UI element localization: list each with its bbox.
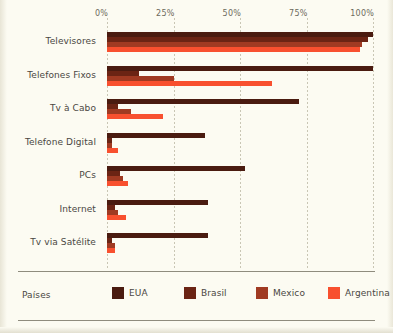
legend-label: EUA xyxy=(129,288,148,298)
bar-argentina xyxy=(107,47,360,52)
bar-group xyxy=(107,66,373,86)
x-tick-label: 0% xyxy=(95,9,111,18)
x-axis-line xyxy=(18,271,375,272)
legend-title: Países xyxy=(22,290,51,300)
bar-eua xyxy=(107,133,205,138)
legend-swatch-icon xyxy=(112,287,124,299)
bar-group xyxy=(107,99,373,119)
legend-item-eua[interactable]: EUA xyxy=(112,287,148,299)
legend-item-mexico[interactable]: Mexico xyxy=(256,287,305,299)
legend-swatch-icon xyxy=(328,287,340,299)
legend-swatch-icon xyxy=(256,287,268,299)
bar-eua xyxy=(107,66,373,71)
chart-legend: Países EUABrasilMexicoArgentina xyxy=(0,286,393,308)
bar-group xyxy=(107,166,373,186)
y-axis-category-labels: TelevisoresTelefones FixosTv à CaboTelef… xyxy=(0,28,104,268)
bar-group xyxy=(107,32,373,52)
legend-item-argentina[interactable]: Argentina xyxy=(328,287,390,299)
bar-group xyxy=(107,200,373,220)
legend-divider xyxy=(18,320,375,321)
bar-argentina xyxy=(107,148,118,153)
legend-item-brasil[interactable]: Brasil xyxy=(184,287,227,299)
legend-label: Mexico xyxy=(273,288,305,298)
category-label: Internet xyxy=(59,204,96,214)
legend-label: Brasil xyxy=(201,288,227,298)
bar-argentina xyxy=(107,81,272,86)
bar-argentina xyxy=(107,215,126,220)
bar-group xyxy=(107,233,373,253)
x-tick-label: 50% xyxy=(223,9,244,18)
bar-group xyxy=(107,133,373,153)
x-tick-label: 75% xyxy=(289,9,310,18)
legend-label: Argentina xyxy=(345,288,390,298)
x-tick-label: 25% xyxy=(156,9,177,18)
bar-eua xyxy=(107,233,208,238)
page-edge-right xyxy=(387,0,393,333)
bar-eua xyxy=(107,200,208,205)
legend-swatch-icon xyxy=(184,287,196,299)
bar-eua xyxy=(107,166,245,171)
page-edge-bottom xyxy=(0,327,393,333)
gridline-100 xyxy=(373,18,374,268)
x-axis-tick-labels: 0%25%50%75%100% xyxy=(0,0,393,26)
category-label: Televisores xyxy=(46,36,96,46)
plot-area xyxy=(107,28,373,268)
bar-argentina xyxy=(107,114,163,119)
category-label: PCs xyxy=(79,170,96,180)
category-label: Telefone Digital xyxy=(25,137,96,147)
category-label: Telefones Fixos xyxy=(27,70,96,80)
bar-argentina xyxy=(107,181,128,186)
x-tick-label: 100% xyxy=(350,9,377,18)
bar-eua xyxy=(107,99,299,104)
category-label: Tv via Satélite xyxy=(30,237,96,247)
category-label: Tv à Cabo xyxy=(50,103,96,113)
bar-argentina xyxy=(107,248,115,253)
horizontal-bar-chart: 0%25%50%75%100% TelevisoresTelefones Fix… xyxy=(0,0,393,333)
